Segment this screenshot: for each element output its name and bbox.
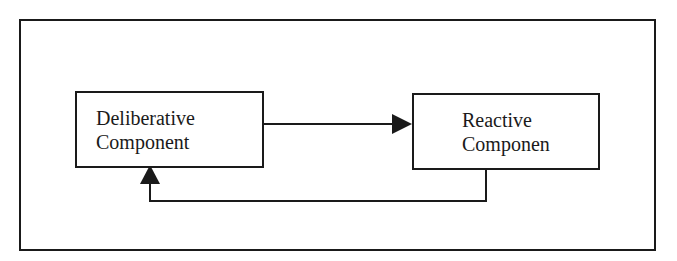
reactive-label-line2: Componen bbox=[462, 132, 550, 156]
reactive-component-box: Reactive Componen bbox=[412, 93, 600, 170]
deliberative-component-box: Deliberative Component bbox=[75, 91, 264, 168]
reactive-label-line1: Reactive bbox=[462, 108, 532, 132]
deliberative-label-line2: Component bbox=[96, 130, 189, 154]
deliberative-label-line1: Deliberative bbox=[96, 106, 195, 130]
arrowhead-right-icon bbox=[392, 114, 412, 134]
edge-reactive-to-deliberative bbox=[150, 169, 486, 201]
